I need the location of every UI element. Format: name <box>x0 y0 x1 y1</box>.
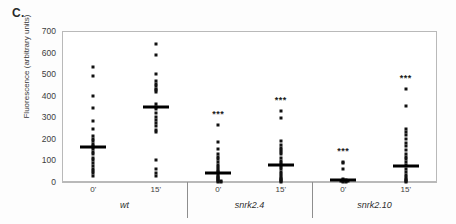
plot-area <box>62 31 437 182</box>
x-axis-line <box>62 182 437 183</box>
data-point <box>279 180 282 183</box>
data-point <box>219 180 222 183</box>
figure-panel: C. Fluorescence (arbitrary units) 010020… <box>0 0 456 224</box>
data-point <box>404 133 407 136</box>
significance-marker: *** <box>400 73 412 83</box>
data-point <box>154 53 157 56</box>
data-point <box>154 90 157 93</box>
x-tick-label: 15' <box>401 185 411 194</box>
data-point <box>217 124 220 127</box>
data-point <box>92 74 95 77</box>
significance-marker: *** <box>212 109 224 119</box>
data-point <box>342 167 345 170</box>
group-label-snrk2-4: snrk2.4 <box>235 200 265 210</box>
x-tick-label: 0' <box>215 185 221 194</box>
data-point <box>279 110 282 113</box>
mean-marker <box>330 179 356 182</box>
data-point <box>92 107 95 110</box>
x-tick-label: 15' <box>151 185 161 194</box>
data-point <box>154 73 157 76</box>
x-tick-label: 0' <box>340 185 346 194</box>
group-label-snrk2-10: snrk2.10 <box>357 200 392 210</box>
group-label-wt: wt <box>120 200 129 210</box>
data-point <box>404 180 407 183</box>
y-tick-label: 100 <box>18 155 56 165</box>
data-point <box>154 167 157 170</box>
y-axis-label: Fluorescence (arbitrary units) <box>22 0 31 137</box>
x-tick-label: 0' <box>90 185 96 194</box>
data-point <box>154 42 157 45</box>
data-point <box>92 127 95 130</box>
data-point <box>217 148 220 151</box>
mean-marker <box>205 172 231 175</box>
group-separator <box>187 182 188 218</box>
data-point <box>342 162 345 165</box>
mean-marker <box>268 164 294 167</box>
data-point <box>404 141 407 144</box>
mean-marker <box>143 105 169 108</box>
data-point <box>92 174 95 177</box>
mean-marker <box>393 164 419 167</box>
mean-marker <box>80 146 106 149</box>
data-point <box>279 139 282 142</box>
significance-marker: *** <box>337 146 349 156</box>
data-point <box>154 130 157 133</box>
data-point <box>279 117 282 120</box>
data-point <box>92 65 95 68</box>
data-point <box>217 141 220 144</box>
data-point <box>92 95 95 98</box>
data-point <box>154 111 157 114</box>
data-point <box>92 119 95 122</box>
data-point <box>154 174 157 177</box>
data-point <box>154 125 157 128</box>
data-point <box>154 159 157 162</box>
y-tick-label: 0 <box>18 177 56 187</box>
data-point <box>404 105 407 108</box>
data-point <box>404 145 407 148</box>
group-separator <box>312 182 313 218</box>
data-point <box>404 87 407 90</box>
x-tick-label: 15' <box>276 185 286 194</box>
significance-marker: *** <box>275 95 287 105</box>
